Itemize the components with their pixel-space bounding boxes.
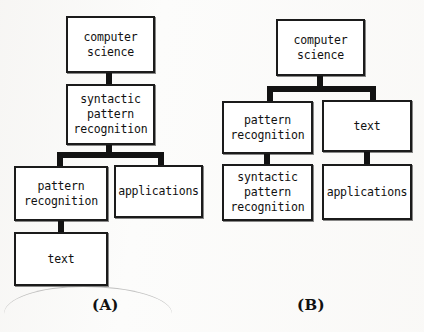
node-label: text: [45, 252, 78, 267]
node-a-pattern-recognition[interactable]: pattern recognition: [14, 166, 108, 221]
node-label: pattern recognition: [21, 179, 101, 208]
connector-a-bus-to-applications: [158, 152, 164, 166]
connector-b-split-bus: [267, 86, 376, 92]
node-label: text: [351, 119, 384, 134]
node-label: syntactic pattern recognition: [71, 92, 151, 136]
node-label: computer science: [81, 30, 141, 59]
connector-b-bus-to-text: [370, 86, 376, 101]
node-a-applications[interactable]: applications: [114, 165, 203, 218]
page-curl-artifact: [4, 286, 172, 332]
caption-a: (A): [92, 296, 119, 314]
node-label: syntactic pattern recognition: [228, 170, 308, 214]
connector-b-bus-to-pattern-recognition: [267, 86, 273, 101]
node-b-applications[interactable]: applications: [322, 164, 412, 220]
node-a-syntactic-pattern-recognition[interactable]: syntactic pattern recognition: [66, 84, 155, 145]
node-b-pattern-recognition[interactable]: pattern recognition: [222, 101, 313, 154]
node-a-text[interactable]: text: [14, 232, 108, 286]
connector-a-bus-to-pattern-recognition: [57, 152, 63, 166]
node-label: pattern recognition: [228, 113, 308, 142]
caption-b: (B): [297, 296, 325, 314]
node-label: applications: [324, 185, 411, 200]
connector-a-split-bus: [57, 152, 164, 158]
node-b-computer-science[interactable]: computer science: [276, 19, 365, 76]
figure-canvas: computer science syntactic pattern recog…: [0, 0, 424, 332]
node-label: applications: [115, 184, 202, 199]
node-b-syntactic-pattern-recognition[interactable]: syntactic pattern recognition: [222, 164, 313, 221]
node-b-text[interactable]: text: [322, 100, 412, 152]
node-label: computer science: [291, 33, 351, 62]
node-a-computer-science[interactable]: computer science: [66, 16, 155, 73]
